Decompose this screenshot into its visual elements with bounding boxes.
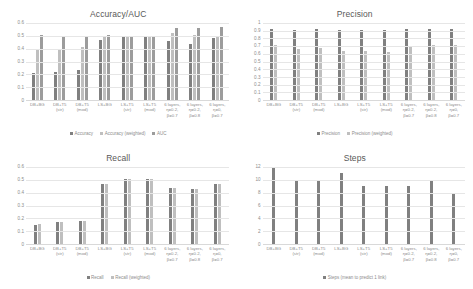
x-tick-label: 6 layers, η=0, β=0.7 [443, 102, 466, 128]
bar [34, 225, 37, 244]
legend-item[interactable]: Accuracy [70, 131, 93, 136]
bar [83, 221, 86, 244]
legend-item[interactable]: Recall (weighted) [111, 275, 150, 280]
bar [167, 41, 170, 100]
chart-title-accuracy-auc: Accuracy/AUC [0, 0, 237, 19]
bar [195, 189, 198, 244]
y-tick-label: 6 [258, 204, 261, 209]
y-tick-label: 0.1 [254, 91, 260, 96]
legend-swatch-icon [317, 132, 320, 135]
legend-item[interactable]: Recall [87, 275, 104, 280]
legend-label: AUC [157, 131, 167, 136]
y-tick-label: 0.1 [18, 230, 24, 235]
x-tick-label: DB+T5 (mod) [71, 246, 94, 272]
plot-canvas-accuracy-auc [26, 23, 229, 101]
y-axis-recall: 00.10.20.30.40.50.6 [8, 167, 25, 245]
chart-panel-precision: Precision 00.10.20.30.40.50.60.70.80.91 … [237, 0, 473, 144]
bar [79, 221, 82, 244]
bar [146, 179, 149, 244]
bar [270, 29, 273, 100]
bar [169, 188, 172, 244]
bar [197, 28, 200, 100]
gridline [263, 218, 466, 219]
x-tick-label: 6 layers, η=0.2, β=0.8 [184, 102, 207, 128]
legend-item[interactable]: AUC [152, 131, 166, 136]
y-tick-label: 1 [258, 21, 261, 26]
x-tick-label: DB+BG [26, 102, 49, 128]
y-tick-label: 0.7 [254, 44, 260, 49]
gridline [26, 49, 229, 50]
y-tick-label: 0.3 [18, 204, 24, 209]
bar [193, 35, 196, 100]
y-tick-label: 8 [258, 191, 261, 196]
bar [450, 29, 453, 100]
bar [360, 30, 363, 100]
plot-area-accuracy-auc: 00.10.20.30.40.50.6 [8, 23, 229, 101]
bar [317, 180, 320, 244]
bar [383, 30, 386, 100]
y-tick-label: 0.3 [254, 75, 260, 80]
gridline [263, 38, 466, 39]
y-tick-label: 0.2 [254, 83, 260, 88]
legend-label: Precision (weighted) [352, 131, 393, 136]
bar [56, 222, 59, 244]
gridline [263, 167, 466, 168]
bar [191, 189, 194, 244]
gridline [263, 180, 466, 181]
legend-item[interactable]: Accuracy (weighted) [100, 131, 145, 136]
gridline [26, 74, 229, 75]
bar [128, 179, 131, 244]
plot-canvas-steps [263, 167, 466, 245]
x-tick-label: LS+T5 (mod) [139, 246, 162, 272]
bar [60, 222, 63, 244]
y-tick-label: 12 [255, 165, 260, 170]
x-axis-accuracy-auc: DB+BGDB+T5 (str)DB+T5 (mod)LS+BGLS+T5 (s… [8, 102, 229, 128]
chart-title-precision: Precision [237, 0, 473, 19]
x-tick-label: DB+T5 (mod) [71, 102, 94, 128]
y-tick-label: 0.5 [18, 178, 24, 183]
gridline [26, 218, 229, 219]
legend-item[interactable]: Precision (weighted) [347, 131, 392, 136]
plot-canvas-recall [26, 167, 229, 245]
chart-panel-steps: Steps 024681012 DB+BGDB+T5 (str)DB+T5 (m… [237, 144, 473, 288]
plot-area-recall: 00.10.20.30.40.50.6 [8, 167, 229, 245]
bar [407, 186, 410, 244]
bar [150, 179, 153, 244]
bar [220, 27, 223, 100]
charts-grid: Accuracy/AUC 00.10.20.30.40.50.6 DB+BGDB… [0, 0, 473, 289]
y-tick-label: 0.2 [18, 217, 24, 222]
x-tick-label: 6 layers, η=0.2, β=0.7 [398, 102, 421, 128]
legend-swatch-icon [152, 132, 155, 135]
y-tick-label: 0.3 [18, 60, 24, 65]
y-tick-label: 10 [255, 178, 260, 183]
y-tick-label: 0.6 [254, 52, 260, 57]
bar [103, 37, 106, 100]
gridline [26, 206, 229, 207]
bar [54, 72, 57, 100]
x-tick-label: DB+T5 (mod) [308, 246, 331, 272]
gridline [26, 167, 229, 168]
bar [385, 186, 388, 244]
x-tick-label: DB+BG [263, 246, 286, 272]
bar [212, 38, 215, 100]
legend-label: Accuracy [75, 131, 94, 136]
legend-item[interactable]: Steps (mean to predict 1 link) [323, 275, 386, 280]
bar [62, 36, 65, 100]
bar [340, 173, 343, 244]
bar [315, 29, 318, 100]
legend-swatch-icon [323, 276, 326, 279]
x-tick-label: DB+T5 (str) [49, 102, 72, 128]
bar [124, 179, 127, 244]
x-tick-label: DB+T5 (str) [49, 246, 72, 272]
chart-title-steps: Steps [237, 144, 473, 163]
x-tick-label: LS+T5 (str) [116, 102, 139, 128]
x-tick-label: LS+T5 (mod) [139, 102, 162, 128]
y-axis-steps: 024681012 [245, 167, 262, 245]
legend-swatch-icon [347, 132, 350, 135]
bar [173, 188, 176, 244]
x-tick-label: LS+T5 (str) [116, 246, 139, 272]
gridline [26, 193, 229, 194]
legend-item[interactable]: Precision [317, 131, 340, 136]
x-tick-label: DB+T5 (mod) [308, 102, 331, 128]
x-tick-label: LS+BG [94, 102, 117, 128]
